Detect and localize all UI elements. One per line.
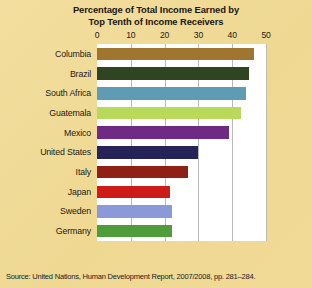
- category-label: Guatemala: [49, 108, 91, 118]
- category-label: Brazil: [70, 69, 91, 79]
- chart-title-line1: Percentage of Total Income Earned by: [18, 4, 294, 16]
- source-text: Source: United Nations, Human Developmen…: [6, 272, 255, 281]
- source-note: Source: United Nations, Human Developmen…: [6, 272, 255, 281]
- bar: [97, 87, 246, 100]
- x-tick-label: 20: [160, 30, 169, 40]
- category-label: Mexico: [64, 128, 91, 138]
- category-label: United States: [40, 147, 91, 157]
- x-tick-label: 0: [95, 30, 100, 40]
- category-label: South Africa: [45, 88, 91, 98]
- bar: [97, 48, 254, 61]
- bar: [97, 126, 229, 139]
- category-label: Italy: [76, 167, 91, 177]
- x-tick-label: 40: [228, 30, 237, 40]
- chart-page: Percentage of Total Income Earned by Top…: [0, 0, 312, 288]
- bar: [97, 146, 198, 159]
- bar: [97, 107, 241, 120]
- chart-title: Percentage of Total Income Earned by Top…: [0, 0, 312, 27]
- category-axis-labels: ColumbiaBrazilSouth AfricaGuatemalaMexic…: [0, 44, 95, 241]
- x-tick-label: 30: [194, 30, 203, 40]
- gridline: [266, 44, 267, 241]
- x-tick-label: 50: [261, 30, 270, 40]
- category-label: Japan: [68, 187, 91, 197]
- category-label: Columbia: [55, 49, 91, 59]
- bar: [97, 67, 249, 80]
- bar: [97, 166, 188, 179]
- x-axis: 01020304050: [97, 30, 266, 43]
- chart-title-line2: Top Tenth of Income Receivers: [18, 16, 294, 28]
- category-label: Sweden: [60, 206, 91, 216]
- chart-area: 01020304050 ColumbiaBrazilSouth AfricaGu…: [0, 30, 312, 262]
- bar: [97, 205, 172, 218]
- bar: [97, 225, 172, 238]
- x-tick-label: 10: [126, 30, 135, 40]
- category-label: Germany: [56, 226, 91, 236]
- plot-area: [97, 44, 266, 241]
- bar: [97, 186, 170, 199]
